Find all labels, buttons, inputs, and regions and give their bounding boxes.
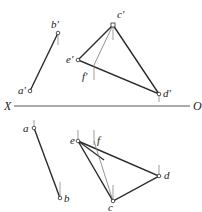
label-a: a: [23, 122, 29, 134]
label-f-prime: f': [82, 70, 88, 82]
point-e: [76, 139, 80, 143]
axis-label-o: O: [193, 99, 202, 113]
label-c-prime: c': [117, 8, 125, 20]
point-d: [157, 174, 161, 178]
label-e: e: [70, 134, 75, 146]
axis-label-x: X: [3, 99, 12, 113]
label-d-prime: d': [163, 87, 172, 99]
projection-diagram: X O a' b' c' e' f' d' a b e f d c: [0, 0, 202, 212]
label-c: c: [108, 201, 113, 212]
point-a-prime: [28, 89, 32, 93]
line-a-b: [34, 128, 60, 198]
line-c-f: [94, 141, 113, 201]
label-d: d: [164, 169, 170, 181]
label-e-prime: e': [66, 53, 74, 65]
line-a-prime-b-prime: [30, 33, 58, 91]
label-b: b: [64, 192, 70, 204]
point-d-prime: [157, 92, 161, 96]
point-c-prime: [111, 23, 115, 27]
label-a-prime: a': [18, 84, 27, 96]
point-b: [58, 196, 62, 200]
label-f: f: [97, 134, 102, 146]
line-c-prime-f-prime: [94, 25, 113, 65]
point-b-prime: [56, 31, 60, 35]
label-b-prime: b': [51, 18, 60, 30]
point-a: [32, 126, 36, 130]
point-e-prime: [76, 58, 80, 62]
triangle-c-prime-d-prime-e-prime: [78, 25, 159, 94]
